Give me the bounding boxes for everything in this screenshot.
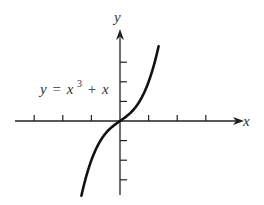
y-axis-label: y bbox=[112, 9, 121, 25]
cubic-function-graph: y x y = x 3 + x bbox=[0, 0, 264, 205]
x-axis-label: x bbox=[242, 113, 250, 129]
equation-annotation: y = x 3 + x bbox=[38, 74, 109, 97]
